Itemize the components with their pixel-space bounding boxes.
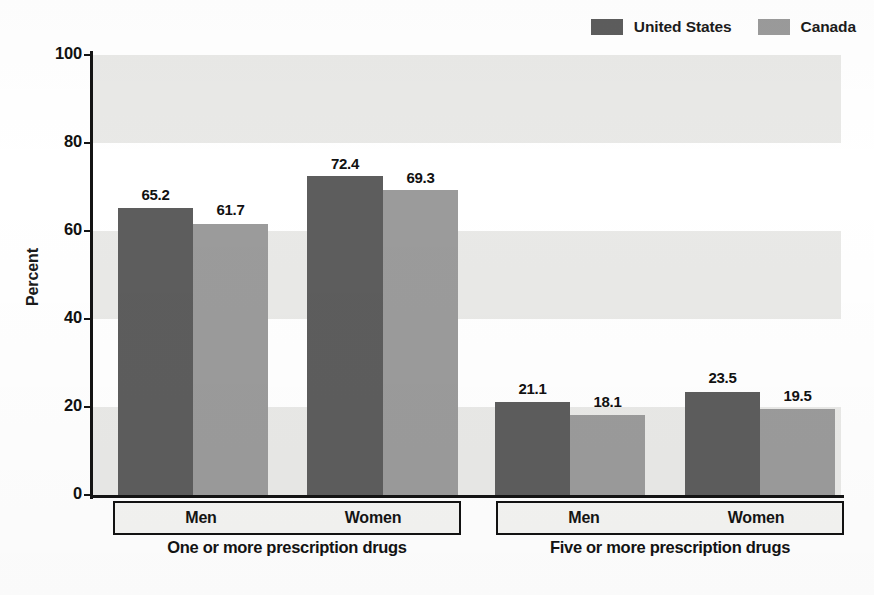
y-axis-title: Percent bbox=[24, 222, 42, 332]
category-label-women-five-or-more: Women bbox=[670, 503, 842, 533]
bar-value-us-women-five-or-more: 23.5 bbox=[685, 369, 760, 386]
bar-ca-men-one-or-more bbox=[193, 224, 268, 496]
bar-us-men-one-or-more bbox=[118, 208, 193, 495]
bar-us-men-five-or-more bbox=[495, 402, 570, 495]
chart-legend: United States Canada bbox=[565, 18, 856, 36]
chart-container: United States Canada 65.2 61.7 72.4 69.3… bbox=[0, 0, 874, 595]
background-band-80-100 bbox=[93, 55, 841, 143]
y-tick-mark-100 bbox=[84, 54, 92, 56]
legend-label-canada: Canada bbox=[801, 18, 856, 36]
bar-value-us-men-five-or-more: 21.1 bbox=[495, 380, 570, 397]
category-label-men-one-or-more: Men bbox=[115, 503, 287, 533]
category-label-men-five-or-more: Men bbox=[498, 503, 670, 533]
bar-value-ca-men-five-or-more: 18.1 bbox=[570, 393, 645, 410]
bar-us-women-five-or-more bbox=[685, 392, 760, 495]
plot-area: 65.2 61.7 72.4 69.3 21.1 18.1 23.5 19.5 bbox=[93, 55, 841, 495]
y-tick-mark-0 bbox=[84, 494, 92, 496]
y-tick-label-20: 20 bbox=[18, 396, 82, 415]
bar-value-ca-men-one-or-more: 61.7 bbox=[193, 201, 268, 218]
category-label-women-one-or-more: Women bbox=[287, 503, 459, 533]
y-tick-mark-40 bbox=[84, 318, 92, 320]
legend-swatch-united-states bbox=[591, 19, 623, 35]
legend-entry-united-states: United States bbox=[591, 18, 732, 36]
bar-value-us-men-one-or-more: 65.2 bbox=[118, 186, 193, 203]
category-bracket-one-or-more: Men Women bbox=[113, 501, 461, 535]
bar-ca-women-one-or-more bbox=[383, 190, 458, 495]
y-tick-mark-60 bbox=[84, 230, 92, 232]
bar-value-ca-women-one-or-more: 69.3 bbox=[383, 169, 458, 186]
legend-entry-canada: Canada bbox=[758, 18, 856, 36]
bar-value-ca-women-five-or-more: 19.5 bbox=[760, 387, 835, 404]
legend-swatch-canada bbox=[758, 19, 790, 35]
x-axis-line bbox=[90, 495, 844, 498]
category-bracket-five-or-more: Men Women bbox=[496, 501, 844, 535]
y-tick-mark-20 bbox=[84, 406, 92, 408]
bar-value-us-women-one-or-more: 72.4 bbox=[307, 155, 383, 172]
y-tick-label-0: 0 bbox=[18, 484, 82, 503]
group-caption-one-or-more: One or more prescription drugs bbox=[113, 538, 461, 557]
legend-label-united-states: United States bbox=[634, 18, 732, 36]
bar-us-women-one-or-more bbox=[307, 176, 383, 495]
y-tick-label-80: 80 bbox=[18, 132, 82, 151]
y-axis-line bbox=[90, 51, 93, 499]
bar-ca-women-five-or-more bbox=[760, 409, 835, 495]
bar-ca-men-five-or-more bbox=[570, 415, 645, 495]
y-tick-label-100: 100 bbox=[18, 44, 82, 63]
y-tick-mark-80 bbox=[84, 142, 92, 144]
group-caption-five-or-more: Five or more prescription drugs bbox=[496, 538, 844, 557]
